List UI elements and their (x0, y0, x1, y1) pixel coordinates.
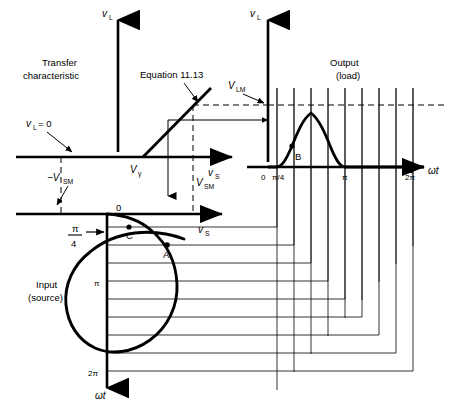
transfer-linear-region (143, 88, 211, 157)
knee-label: V (130, 164, 138, 175)
output-point-b-label: B (295, 151, 301, 162)
equation-label: Equation 11.13 (140, 69, 203, 80)
input-title-line2: (source) (28, 292, 63, 303)
output-waveform (268, 113, 424, 167)
input-x-axis-label: v (198, 224, 204, 235)
vsm-sub: SM (204, 183, 215, 190)
zero-region-leader (47, 132, 72, 152)
transfer-y-axis-sub: L (109, 14, 113, 21)
input-tick-pi: π (94, 279, 100, 288)
zero-region-label: v (26, 118, 32, 129)
vsm-label: V (196, 177, 204, 188)
input-point-a-label: A (163, 249, 170, 260)
neg-vsm-sub: SM (63, 178, 74, 185)
transfer-y-axis-label: v (102, 8, 108, 19)
transfer-title-line1: Transfer (42, 57, 77, 68)
input-title-line1: Input (36, 279, 57, 290)
output-tick-2pi: 2π (405, 173, 415, 182)
input-point-a-marker (164, 242, 170, 248)
zero-region-equals: = 0 (38, 118, 51, 129)
transfer-x-axis-sub: S (215, 173, 220, 180)
input-phase-numerator: π (72, 223, 79, 234)
neg-vsm-leader (57, 186, 68, 205)
transfer-characteristic-panel: Transfer characteristic v L v S v L = 0 … (16, 8, 268, 214)
equation-leader (184, 83, 198, 102)
input-source-panel: 0 C A v S ωt π 4 π 2π Input (source) (16, 88, 413, 401)
output-peak-sub: LM (236, 86, 246, 93)
output-x-axis-label: ωt (428, 165, 440, 176)
input-gridlines (107, 227, 413, 371)
input-point-c-label: C (126, 230, 133, 241)
output-y-axis-label: v (250, 8, 256, 19)
output-title-line2: (load) (336, 70, 360, 81)
output-y-axis-sub: L (257, 14, 261, 21)
input-point-c-marker (126, 224, 131, 229)
neg-vsm-label: −V (47, 172, 61, 183)
transfer-x-axis-label: v (208, 167, 214, 178)
output-load-panel: B Output (load) v L ωt V LM 0 π/4 π 2π (228, 8, 448, 390)
output-tick-pi4: π/4 (272, 173, 285, 182)
input-origin-label: 0 (116, 202, 121, 213)
output-peak-label: V (228, 80, 236, 91)
output-title-line1: Output (330, 57, 359, 68)
transfer-title-line2: characteristic (23, 70, 79, 81)
input-x-axis-sub: S (205, 230, 210, 237)
input-sine-waveform (66, 214, 184, 352)
input-tick-2pi: 2π (88, 369, 98, 378)
output-tick-0: 0 (261, 173, 266, 182)
diagram-svg: Transfer characteristic v L v S v L = 0 … (0, 0, 456, 403)
output-peak-leader (243, 94, 264, 103)
input-phase-denominator: 4 (71, 238, 76, 249)
input-y-axis-label: ωt (95, 390, 107, 401)
knee-sub: γ (138, 170, 142, 178)
zero-region-sub: L (33, 124, 37, 131)
figure-canvas: Transfer characteristic v L v S v L = 0 … (0, 0, 456, 403)
